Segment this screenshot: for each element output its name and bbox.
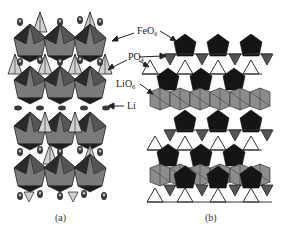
- panel-b-structure: [142, 34, 273, 202]
- caption-panel-a: (a): [55, 212, 66, 223]
- caption-panel-b: (b): [205, 212, 217, 223]
- label-po4: PO4: [128, 52, 144, 63]
- label-feo6: FeO6: [137, 26, 157, 37]
- lifepo4-crystal-structure-figure: FeO6 PO4 LiO6 Li (a) (b): [0, 0, 289, 238]
- label-li: Li: [127, 101, 136, 111]
- label-lio6: LiO6: [116, 79, 135, 90]
- panel-a-structure: [8, 12, 112, 202]
